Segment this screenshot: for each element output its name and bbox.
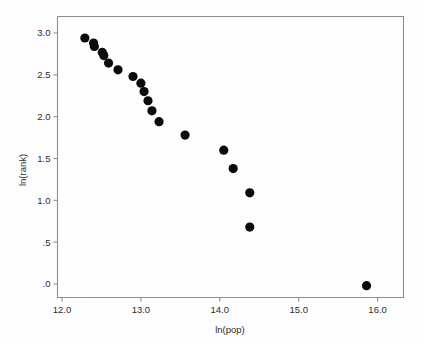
- data-point: [245, 188, 254, 197]
- x-tick-label: 16.0: [368, 304, 387, 315]
- data-point: [229, 164, 238, 173]
- data-point: [80, 33, 89, 42]
- data-point: [128, 72, 137, 81]
- plot-canvas: 3.02.52.01.51.0.5.0 12.013.014.015.016.0…: [0, 0, 423, 343]
- scatter-plot-figure: 3.02.52.01.51.0.5.0 12.013.014.015.016.0…: [0, 0, 423, 343]
- y-axis: 3.02.52.01.51.0.5.0: [37, 27, 57, 289]
- data-points-layer: [80, 33, 371, 290]
- y-tick-label: 3.0: [37, 27, 50, 38]
- y-tick-label: 2.5: [37, 69, 50, 80]
- data-point: [362, 281, 371, 290]
- y-axis-title: ln(rank): [17, 154, 28, 186]
- data-point: [136, 79, 145, 88]
- x-tick-label: 15.0: [289, 304, 308, 315]
- data-point: [219, 146, 228, 155]
- y-tick-label: .0: [43, 278, 51, 289]
- x-axis-title: ln(pop): [215, 324, 245, 335]
- data-point: [139, 87, 148, 96]
- data-point: [245, 223, 254, 232]
- data-point: [104, 59, 113, 68]
- data-point: [180, 130, 189, 139]
- x-axis: 12.013.014.015.016.0: [53, 298, 387, 315]
- x-tick-label: 14.0: [211, 304, 230, 315]
- data-point: [143, 96, 152, 105]
- data-point: [113, 65, 122, 74]
- y-tick-label: 1.0: [37, 195, 50, 206]
- data-point: [154, 117, 163, 126]
- y-tick-label: 2.0: [37, 111, 50, 122]
- y-tick-label: .5: [43, 237, 51, 248]
- data-point: [90, 42, 99, 51]
- data-point: [147, 106, 156, 115]
- x-tick-label: 12.0: [53, 304, 72, 315]
- x-tick-label: 13.0: [132, 304, 151, 315]
- y-tick-label: 1.5: [37, 153, 50, 164]
